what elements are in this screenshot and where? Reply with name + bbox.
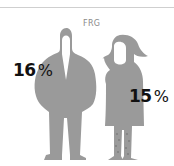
man-figure-icon bbox=[35, 28, 97, 160]
women-percentage: 15% bbox=[129, 86, 168, 106]
men-percentage: 16% bbox=[13, 60, 52, 80]
pictogram bbox=[0, 0, 174, 166]
women-value: 15 bbox=[129, 86, 152, 106]
women-percent-sign: % bbox=[154, 87, 169, 106]
men-value: 16 bbox=[13, 60, 36, 80]
men-percent-sign: % bbox=[38, 61, 53, 80]
